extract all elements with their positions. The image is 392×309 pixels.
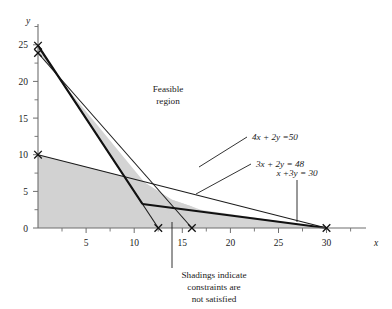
leader-line-4x-2y-50: [199, 137, 247, 167]
line-label-x-3y-30: x +3y = 30: [275, 168, 318, 178]
y-tick-label: 25: [19, 40, 29, 50]
y-tick-label: 10: [19, 150, 29, 160]
shade-path-upper: [38, 46, 192, 228]
x-axis-ticks: [62, 228, 351, 233]
y-tick-label: 15: [19, 114, 29, 124]
y-tick-labels: 0 5 10 15 20 25: [19, 40, 29, 233]
note-line2: constraints are: [187, 282, 240, 292]
x-axis-label: x: [373, 238, 379, 248]
feasible-region-chart: 5 10 15 20 25 30 0 5 10 15 20 25 y x: [0, 0, 392, 309]
y-tick-label: 20: [19, 77, 29, 87]
x-tick-label: 5: [84, 238, 89, 248]
x-tick-label: 25: [274, 238, 284, 248]
y-axis-label: y: [25, 16, 31, 26]
leader-line-3x-2y-48: [196, 164, 251, 194]
feasible-region-label-line1: Feasible: [153, 84, 184, 94]
leader-lines: [172, 137, 297, 268]
x-tick-labels: 5 10 15 20 25 30: [84, 238, 332, 248]
feasible-region-label-line2: region: [156, 96, 180, 106]
y-axis-ticks: [33, 27, 38, 229]
y-tick-label: 0: [23, 224, 28, 234]
y-tick-label: 5: [23, 187, 28, 197]
x-tick-label: 10: [129, 238, 139, 248]
note-line3: not satisfied: [192, 294, 237, 304]
note-line1: Shadings indicate: [181, 270, 246, 280]
x-tick-label: 20: [226, 238, 236, 248]
x-tick-label: 15: [178, 238, 188, 248]
line-label-4x-2y-50: 4x + 2y =50: [252, 132, 298, 142]
x-tick-label: 30: [322, 238, 332, 248]
